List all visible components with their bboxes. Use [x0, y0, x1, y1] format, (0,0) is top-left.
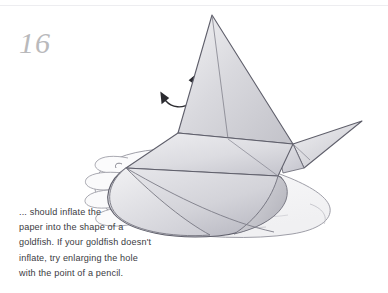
caption-line: ... should inflate the: [19, 205, 224, 220]
caption-line: with the point of a pencil.: [19, 266, 224, 281]
caption-line: paper into the shape of a: [19, 220, 224, 235]
caption-text: ... should inflate the paper into the sh…: [19, 205, 224, 281]
upper-tail-fin: [178, 15, 293, 144]
step-number: 16: [19, 28, 51, 58]
lower-tail-fin: [293, 121, 362, 168]
origami-instruction-page: 16: [0, 0, 388, 293]
caption-line: goldfish. If your goldfish doesn't: [19, 235, 224, 250]
page-top-rule: [0, 5, 388, 6]
caption-line: inflate, try enlarging the hole: [19, 251, 224, 266]
